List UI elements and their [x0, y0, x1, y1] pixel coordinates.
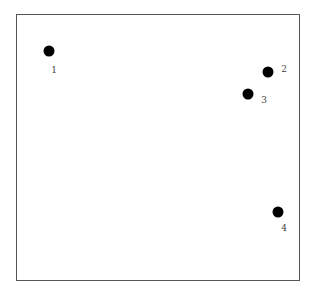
point-2-marker: [263, 67, 274, 78]
point-4-label: 4: [281, 224, 287, 233]
point-4-marker: [273, 207, 284, 218]
point-3-label: 3: [261, 96, 267, 105]
point-3-marker: [243, 89, 254, 100]
point-2-label: 2: [281, 65, 287, 74]
diagram-frame: [16, 14, 300, 281]
point-1-label: 1: [51, 66, 57, 75]
point-1-marker: [44, 46, 55, 57]
